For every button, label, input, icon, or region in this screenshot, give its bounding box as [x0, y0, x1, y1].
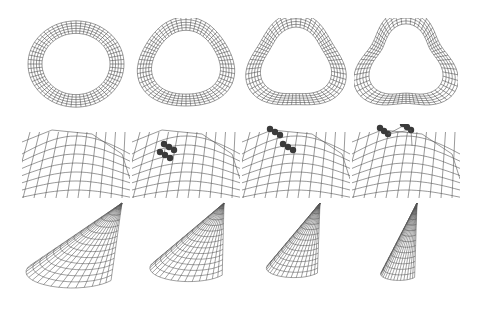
control-point-icon [171, 147, 177, 153]
torus-panel-1 [24, 18, 128, 114]
cone-panel-4 [352, 200, 462, 300]
torus-panel-4 [354, 18, 458, 114]
mesh-panel-2 [132, 124, 240, 198]
control-point-icon [290, 147, 296, 153]
cone-panel-1 [22, 200, 132, 300]
mesh-panel-1 [22, 124, 130, 198]
cone-panel-2 [132, 200, 242, 300]
mesh-panel-4 [352, 124, 460, 198]
control-point-icon [277, 132, 283, 138]
torus-panel-3 [244, 18, 348, 114]
torus-panel-2 [134, 18, 238, 114]
cone-panel-3 [242, 200, 352, 300]
mesh-panel-3 [242, 124, 350, 198]
control-point-icon [167, 155, 173, 161]
